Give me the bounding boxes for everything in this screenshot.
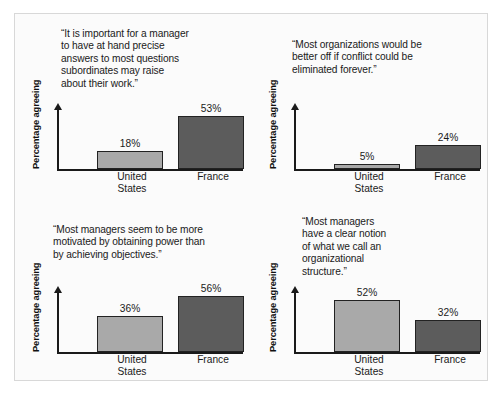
- category-labels-3: United States France: [296, 354, 480, 380]
- plot-area-1: Percentage agreeing 5% 24% United States…: [294, 109, 480, 199]
- category-label-france-1: France: [413, 171, 487, 183]
- bar-value-united-states-1: 5%: [330, 151, 404, 162]
- bar-slot-united-states-3: 52%: [330, 290, 404, 352]
- bars-group-3: 52% 32%: [296, 290, 480, 352]
- bar-slot-france-0: 53%: [174, 107, 248, 169]
- bar-value-france-1: 24%: [411, 132, 485, 143]
- bars-group-0: 18% 53%: [59, 107, 243, 169]
- bar-slot-france-3: 32%: [411, 290, 485, 352]
- bar-france-3: [415, 320, 481, 352]
- category-label-france-0: France: [176, 171, 250, 183]
- bar-value-united-states-3: 52%: [330, 287, 404, 298]
- bar-united-states-2: [97, 316, 163, 352]
- category-label-united-states-1: United States: [332, 171, 406, 194]
- bar-france-1: [415, 145, 481, 169]
- category-label-united-states-0: United States: [95, 171, 169, 194]
- bar-slot-france-1: 24%: [411, 107, 485, 169]
- chart-panel-1: “Most organizations would be better off …: [252, 14, 488, 204]
- bar-value-france-2: 56%: [174, 283, 248, 294]
- chart-panel-3: “Most managers have a clear notion of wh…: [252, 204, 488, 381]
- y-axis-label-3: Percentage agreeing: [267, 263, 278, 352]
- category-label-united-states-2: United States: [95, 354, 169, 377]
- chart-quote-3: “Most managers have a clear notion of wh…: [302, 216, 452, 278]
- bar-value-united-states-2: 36%: [93, 303, 167, 314]
- figure-frame: “It is important for a manager to have a…: [14, 13, 488, 381]
- bar-united-states-1: [334, 164, 400, 169]
- bar-slot-france-2: 56%: [174, 290, 248, 352]
- plot-area-0: Percentage agreeing 18% 53% United State…: [57, 109, 243, 199]
- bar-slot-united-states-2: 36%: [93, 290, 167, 352]
- y-axis-label-1: Percentage agreeing: [267, 80, 278, 169]
- plot-area-3: Percentage agreeing 52% 32% United State…: [294, 292, 480, 381]
- chart-panel-0: “It is important for a manager to have a…: [15, 14, 252, 204]
- bar-value-france-3: 32%: [411, 307, 485, 318]
- chart-quote-1: “Most organizations would be better off …: [292, 39, 484, 76]
- category-labels-1: United States France: [296, 171, 480, 197]
- category-label-france-2: France: [176, 354, 250, 366]
- bar-slot-united-states-0: 18%: [93, 107, 167, 169]
- plot-area-2: Percentage agreeing 36% 56% United State…: [57, 292, 243, 381]
- chart-quote-2: “Most managers seem to be more motivated…: [53, 224, 249, 261]
- y-axis-label-0: Percentage agreeing: [30, 80, 41, 169]
- bar-value-united-states-0: 18%: [93, 138, 167, 149]
- bar-united-states-3: [334, 300, 400, 352]
- y-axis-label-2: Percentage agreeing: [30, 263, 41, 352]
- bar-france-0: [178, 116, 244, 169]
- bar-slot-united-states-1: 5%: [330, 107, 404, 169]
- category-label-france-3: France: [413, 354, 487, 366]
- chart-panel-2: “Most managers seem to be more motivated…: [15, 204, 252, 381]
- chart-quote-0: “It is important for a manager to have a…: [61, 28, 246, 90]
- bar-value-france-0: 53%: [174, 103, 248, 114]
- bars-group-1: 5% 24%: [296, 107, 480, 169]
- bar-united-states-0: [97, 151, 163, 169]
- category-label-united-states-3: United States: [332, 354, 406, 377]
- bars-group-2: 36% 56%: [59, 290, 243, 352]
- category-labels-2: United States France: [59, 354, 243, 380]
- category-labels-0: United States France: [59, 171, 243, 197]
- bar-france-2: [178, 296, 244, 352]
